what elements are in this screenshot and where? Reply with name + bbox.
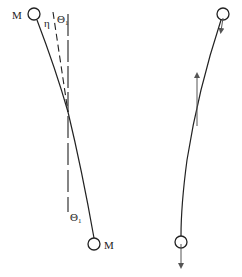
eta-label: η [44,18,50,29]
theta-bottom-label: Θ1 [70,212,81,227]
theta-bottom-symbol: Θ [70,211,78,223]
bent-rod-curve [37,20,94,238]
mass-bottom-label: M [104,240,114,251]
top-mass-circle [28,8,40,20]
mass-top-label: M [12,10,22,21]
left-panel [28,8,100,250]
theta-top-label: Θ1 [57,14,68,29]
theta-top-subscript: 1 [65,19,69,27]
right-panel [175,8,229,266]
theta-top-symbol: Θ [57,13,65,25]
pendulum-diagram [0,0,242,277]
right-bent-rod-curve [181,20,221,236]
bottom-mass-circle [88,238,100,250]
theta-bottom-subscript: 1 [78,217,82,225]
